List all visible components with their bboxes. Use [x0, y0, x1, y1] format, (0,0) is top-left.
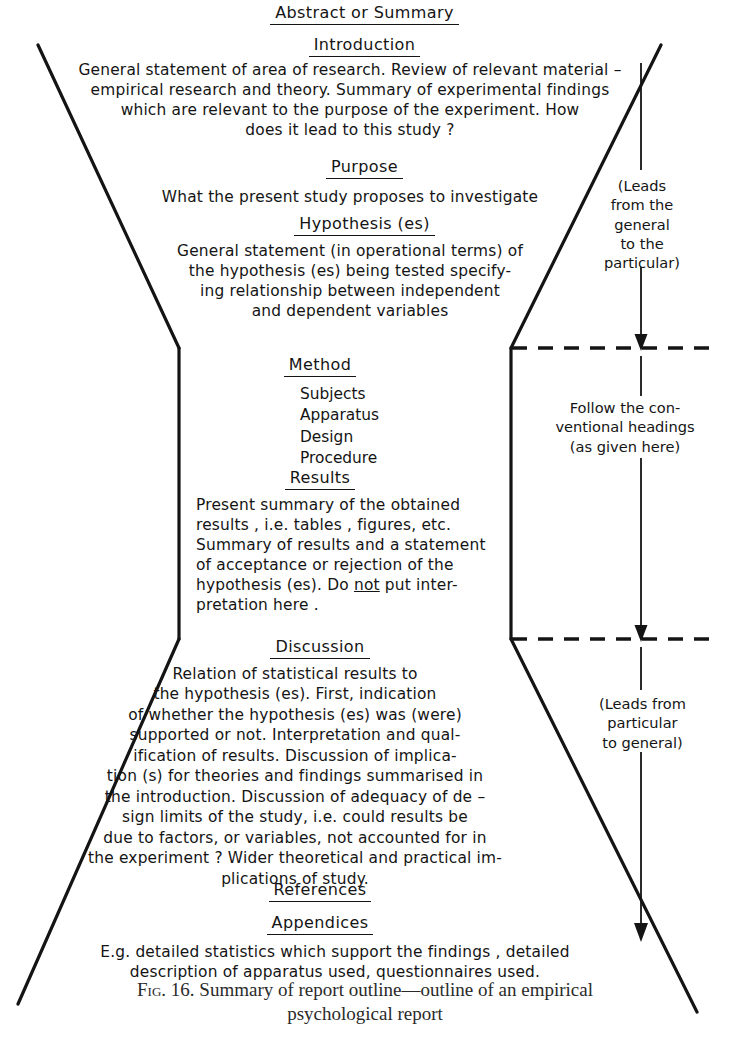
heading-appendices: Appendices: [160, 913, 480, 935]
heading-abstract-or-summary: Abstract or Summary: [0, 3, 729, 25]
heading-results: Results: [160, 468, 480, 490]
side-note-leads-general-to-particular: (Leads from the general to the particula…: [562, 176, 722, 272]
text-appendices-body: E.g. detailed statistics which support t…: [55, 942, 615, 982]
list-method-items: SubjectsApparatusDesignProcedure: [300, 384, 520, 469]
text-discussion-body: Relation of statistical results to the h…: [60, 664, 530, 889]
heading-appendices-label: Appendices: [267, 913, 374, 935]
results-emphasis-not: not: [354, 576, 380, 594]
heading-method: Method: [160, 355, 480, 377]
side-note-leads-particular-to-general: (Leads from particular to general): [560, 694, 725, 752]
text-hypothesis-body: General statement (in operational terms)…: [120, 241, 580, 321]
arrowhead-down-icon-3: [634, 923, 648, 942]
arrowhead-down-icon-2: [635, 625, 648, 642]
heading-discussion: Discussion: [160, 637, 480, 659]
heading-hypothesis-label: Hypothesis (es): [294, 214, 435, 236]
heading-introduction-label: Introduction: [309, 35, 421, 57]
heading-introduction: Introduction: [0, 35, 729, 57]
method-item-apparatus: Apparatus: [300, 406, 379, 424]
heading-discussion-label: Discussion: [270, 637, 369, 659]
method-item-subjects: Subjects: [300, 385, 366, 403]
figure-caption: Fig. 16. Summary of report outline—outli…: [40, 978, 690, 1027]
heading-method-label: Method: [284, 355, 356, 377]
text-results-body: Present summary of the obtained results …: [196, 495, 526, 615]
heading-references-label: References: [269, 880, 372, 902]
heading-abstract-label: Abstract or Summary: [270, 3, 459, 25]
text-introduction-body: General statement of area of research. R…: [40, 60, 660, 140]
arrowhead-down-icon-1: [635, 334, 648, 351]
method-item-design: Design: [300, 428, 353, 446]
figure-caption-text: Summary of report outline—outline of an …: [195, 979, 593, 1024]
text-purpose-body: What the present study proposes to inves…: [85, 187, 615, 207]
report-outline-figure: Abstract or Summary Introduction General…: [0, 0, 729, 1053]
figure-caption-label: Fig. 16.: [137, 979, 195, 1000]
heading-purpose-label: Purpose: [326, 157, 403, 179]
heading-references: References: [160, 880, 480, 902]
side-note-follow-conventional-headings: Follow the con- ventional headings (as g…: [525, 398, 725, 456]
method-item-procedure: Procedure: [300, 449, 377, 467]
heading-results-label: Results: [285, 468, 356, 490]
